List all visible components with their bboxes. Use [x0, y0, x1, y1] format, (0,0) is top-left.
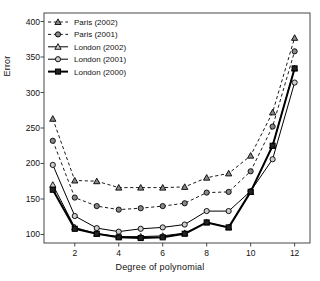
data-point-marker — [248, 189, 253, 194]
legend-label: London (2000) — [74, 68, 126, 77]
data-point-marker — [204, 220, 209, 225]
data-point-marker — [138, 226, 143, 231]
data-point-marker — [248, 169, 253, 174]
data-point-marker — [270, 157, 275, 162]
data-point-marker — [160, 235, 165, 240]
chart-figure: Error Degree of polynomial 1001502002503… — [0, 0, 320, 281]
data-point-marker — [292, 80, 297, 85]
data-point-marker — [226, 189, 231, 194]
series-line — [53, 68, 295, 236]
data-point-marker — [72, 195, 77, 200]
legend-label: London (2002) — [74, 43, 126, 52]
data-point-marker — [204, 175, 210, 181]
data-point-marker — [248, 153, 254, 159]
data-point-marker — [204, 190, 209, 195]
data-point-marker — [270, 124, 275, 129]
data-point-marker — [72, 226, 77, 231]
data-point-marker — [55, 32, 60, 37]
legend-label: London (2001) — [74, 55, 126, 64]
data-point-marker — [160, 225, 165, 230]
data-point-marker — [72, 213, 77, 218]
legend-label: Paris (2001) — [74, 30, 118, 39]
data-point-marker — [56, 69, 61, 74]
data-point-marker — [50, 182, 56, 188]
data-point-marker — [226, 225, 231, 230]
data-point-marker — [138, 236, 143, 241]
data-point-marker — [226, 208, 231, 213]
legend-label: Paris (2002) — [74, 18, 118, 27]
data-point-marker — [116, 235, 121, 240]
legend-item-3[interactable]: London (2001) — [48, 55, 126, 64]
data-point-marker — [226, 170, 232, 176]
legend: Paris (2002)Paris (2001)London (2002)Lon… — [48, 18, 126, 77]
plot-area: Paris (2002)Paris (2001)London (2002)Lon… — [0, 0, 320, 281]
data-point-marker — [270, 143, 275, 148]
legend-item-1[interactable]: Paris (2001) — [48, 30, 118, 39]
series-2 — [50, 65, 298, 239]
data-point-marker — [55, 57, 60, 62]
data-point-marker — [138, 206, 143, 211]
data-point-marker — [94, 203, 99, 208]
data-point-marker — [292, 49, 297, 54]
series-line — [53, 68, 295, 238]
series-line — [53, 83, 295, 232]
legend-item-2[interactable]: London (2002) — [48, 43, 126, 52]
data-point-marker — [182, 231, 187, 236]
data-point-marker — [182, 201, 187, 206]
legend-item-4[interactable]: London (2000) — [48, 68, 126, 77]
data-point-marker — [292, 35, 298, 41]
data-point-marker — [116, 229, 121, 234]
legend-item-0[interactable]: Paris (2002) — [48, 18, 118, 27]
series-3 — [50, 80, 297, 234]
data-point-marker — [204, 208, 209, 213]
data-point-marker — [50, 116, 56, 122]
data-point-marker — [50, 187, 55, 192]
data-point-marker — [160, 203, 165, 208]
data-point-marker — [270, 109, 276, 115]
data-point-marker — [292, 66, 297, 71]
data-point-marker — [72, 177, 78, 183]
data-point-marker — [50, 138, 55, 143]
data-point-marker — [50, 162, 55, 167]
data-point-marker — [94, 178, 100, 184]
data-point-marker — [94, 225, 99, 230]
data-point-marker — [94, 231, 99, 236]
data-point-marker — [182, 222, 187, 227]
data-point-marker — [116, 207, 121, 212]
series-4 — [50, 66, 297, 241]
